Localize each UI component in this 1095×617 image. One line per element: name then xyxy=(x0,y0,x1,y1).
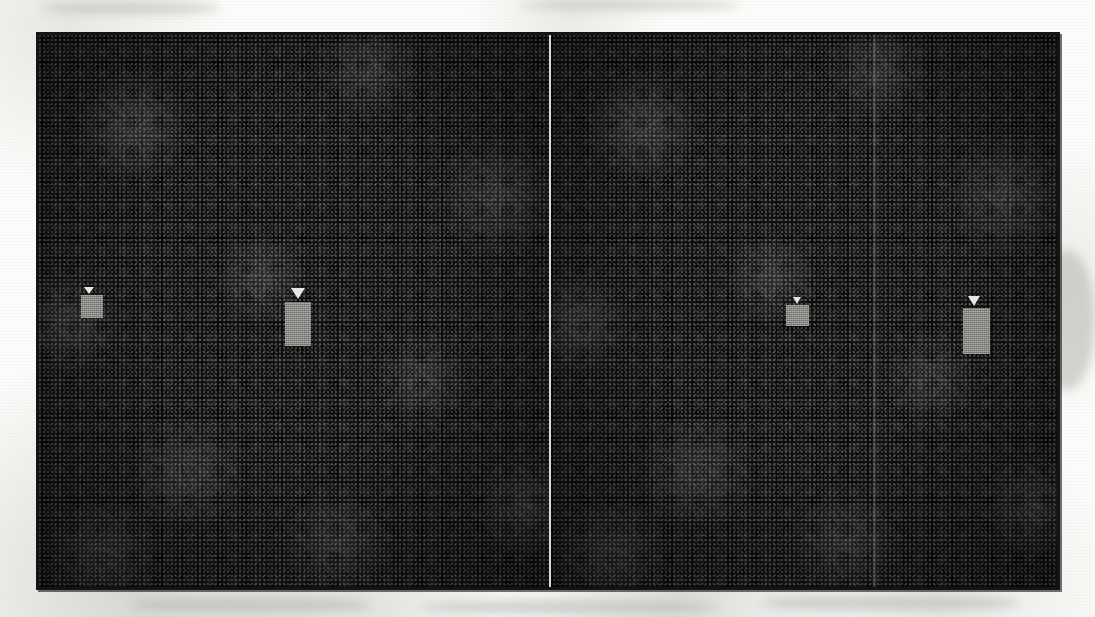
marker-3-block[interactable] xyxy=(786,305,809,326)
figure-frame xyxy=(36,32,1060,590)
smudge-top-2 xyxy=(520,0,740,10)
marker-2-triangle-icon xyxy=(291,288,305,299)
marker-3-triangle-icon xyxy=(793,297,801,304)
marker-1-block[interactable] xyxy=(81,295,103,318)
figure-page xyxy=(0,0,1095,617)
smudge-top-1 xyxy=(40,2,220,14)
marker-1-triangle-icon xyxy=(84,287,94,294)
divider-main xyxy=(549,35,551,587)
panel-container xyxy=(39,35,1057,587)
smudge-bottom-2 xyxy=(420,600,720,614)
marker-2-block[interactable] xyxy=(285,302,311,346)
smudge-bottom-1 xyxy=(130,596,370,614)
marker-4-block[interactable] xyxy=(963,308,990,354)
marker-4-triangle-icon xyxy=(968,296,980,306)
smudge-bottom-3 xyxy=(760,595,1020,611)
